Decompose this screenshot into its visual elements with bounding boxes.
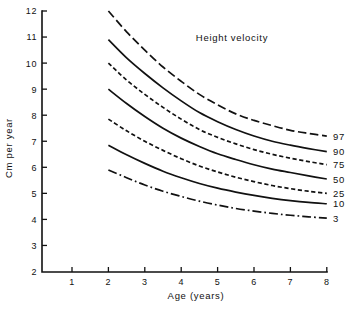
percentile-label-75: 75: [333, 159, 345, 170]
chart-canvas: 23456789101112 12345678 9790755025103 He…: [0, 0, 348, 309]
axes: [42, 11, 327, 272]
y-tick-label: 4: [31, 215, 37, 225]
y-tick-label: 9: [31, 85, 37, 95]
height-velocity-chart: 23456789101112 12345678 9790755025103 He…: [0, 0, 348, 309]
x-tick-label: 2: [106, 277, 112, 287]
percentile-curve-97: [108, 11, 326, 136]
y-tick-label: 11: [26, 32, 37, 42]
y-axis-title: Cm per year: [3, 118, 14, 178]
percentile-labels: 9790755025103: [333, 131, 345, 224]
x-tick-label: 6: [251, 277, 257, 287]
x-tick-label: 5: [215, 277, 221, 287]
percentile-curve-90: [108, 40, 326, 152]
x-tick-label: 3: [142, 277, 148, 287]
y-tick-label: 5: [31, 189, 37, 199]
y-tick-label: 6: [31, 163, 37, 173]
x-tick-label: 4: [178, 277, 184, 287]
x-tick-label: 1: [69, 277, 75, 287]
percentile-curve-3: [108, 170, 326, 218]
percentile-label-25: 25: [333, 188, 345, 199]
percentile-label-10: 10: [333, 198, 345, 209]
chart-title: Height velocity: [196, 32, 268, 43]
percentile-label-50: 50: [333, 174, 345, 185]
percentile-label-97: 97: [333, 131, 345, 142]
x-tick-label: 8: [324, 277, 330, 287]
x-axis-tick-labels: 12345678: [69, 277, 329, 287]
y-tick-label: 3: [31, 241, 37, 251]
y-tick-label: 12: [26, 6, 37, 16]
y-tick-label: 10: [26, 59, 37, 69]
percentile-label-90: 90: [333, 146, 345, 157]
y-axis-tick-labels: 23456789101112: [26, 6, 37, 277]
percentile-label-3: 3: [333, 213, 339, 224]
y-tick-label: 7: [31, 137, 37, 147]
y-tick-label: 2: [31, 267, 37, 277]
x-axis-title: Age (years): [168, 290, 225, 301]
y-tick-label: 8: [31, 111, 37, 121]
axis-lines: [42, 11, 327, 272]
percentile-curve-50: [108, 89, 326, 179]
tick-marks: [42, 11, 327, 272]
x-tick-label: 7: [288, 277, 294, 287]
